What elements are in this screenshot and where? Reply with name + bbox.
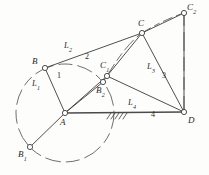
link-label-L4: L4 (128, 98, 136, 109)
joint-D[interactable] (181, 109, 186, 114)
link-number-4: 4 (151, 111, 155, 119)
joint-C2[interactable] (181, 10, 186, 15)
point-label-B: B (32, 57, 38, 66)
link-number-2: 2 (85, 53, 89, 61)
link-label-L3: L3 (147, 62, 155, 73)
joint-C1[interactable] (104, 73, 109, 78)
joint-A[interactable] (62, 110, 67, 115)
point-label-B2: B2 (96, 86, 105, 97)
point-label-B1: B1 (18, 150, 27, 161)
joint-B[interactable] (42, 65, 47, 70)
link-C-C2 (142, 13, 184, 33)
joint-C[interactable] (139, 30, 144, 35)
solid-links (30, 13, 184, 147)
link-label-L1: L1 (32, 79, 40, 90)
point-label-D: D (188, 116, 195, 125)
joints (27, 10, 186, 149)
ground-line (65, 112, 184, 113)
link-A-B (45, 68, 65, 113)
link-label-L2: L2 (64, 41, 72, 52)
link-C1-D (107, 76, 184, 112)
joint-B1[interactable] (27, 144, 32, 149)
point-label-C: C (138, 19, 144, 28)
point-label-C2: C2 (187, 3, 196, 14)
figure-canvas: A B B1 B2 C C1 C2 D L1 L2 L3 L4 1 2 3 4 (0, 0, 209, 175)
point-label-C1: C1 (100, 61, 109, 72)
ground-hatch-icon (107, 113, 127, 119)
link-number-3: 3 (162, 72, 166, 80)
point-label-A: A (60, 118, 66, 127)
link-number-1: 1 (57, 72, 61, 80)
joint-B2[interactable] (100, 79, 105, 84)
